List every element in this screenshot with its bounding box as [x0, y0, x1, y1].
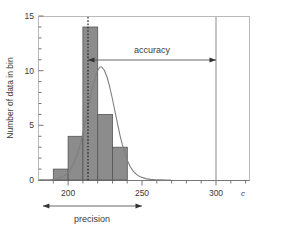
y-tick-label-5: 5 — [29, 120, 34, 130]
x-axis-ticks — [53, 181, 245, 186]
y-axis-ticks — [39, 16, 44, 180]
precision-arrowhead-right — [136, 203, 143, 208]
chart-svg: 0 5 10 15 Number of data in bin — [0, 0, 299, 229]
y-tick-label-0: 0 — [29, 175, 34, 185]
chart-figure: 0 5 10 15 Number of data in bin — [0, 0, 299, 229]
y-axis-title: Number of data in bin — [5, 57, 15, 139]
histogram-bar — [83, 27, 98, 180]
x-axis-variable-label: c — [241, 189, 245, 198]
x-tick-label-200: 200 — [61, 188, 75, 198]
precision-arrowhead-left — [43, 203, 50, 208]
accuracy-arrowhead-right — [210, 57, 217, 62]
x-tick-label-300: 300 — [209, 188, 223, 198]
histogram-bar — [98, 114, 113, 180]
histogram-bars — [53, 27, 127, 180]
accuracy-label: accuracy — [134, 45, 171, 55]
y-tick-label-10: 10 — [25, 66, 35, 76]
precision-annotation: precision — [43, 203, 142, 224]
precision-label: precision — [74, 214, 110, 224]
accuracy-annotation: accuracy — [88, 45, 216, 63]
histogram-bar — [113, 147, 128, 180]
y-tick-label-15: 15 — [25, 11, 35, 21]
x-tick-label-250: 250 — [135, 188, 149, 198]
